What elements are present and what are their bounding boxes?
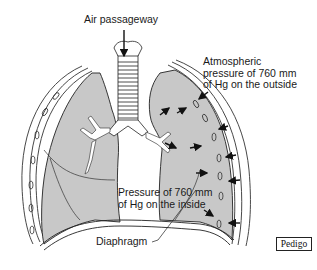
inside-pressure-label: Pressure of 760 mm of Hg on the inside	[118, 187, 213, 210]
atmospheric-line-3: of Hg on the outside	[203, 79, 297, 91]
inside-line-2: of Hg on the inside	[118, 199, 213, 211]
air-passageway-label: Air passageway	[84, 14, 158, 26]
atmospheric-pressure-label: Atmospheric pressure of 760 mm of Hg on …	[203, 56, 297, 91]
diaphragm-label: Diaphragm	[96, 236, 147, 248]
atmospheric-line-1: Atmospheric	[203, 56, 297, 68]
inside-line-1: Pressure of 760 mm	[118, 187, 213, 199]
lung-diagram	[0, 0, 317, 270]
credit-badge: Pedigo	[276, 237, 312, 251]
